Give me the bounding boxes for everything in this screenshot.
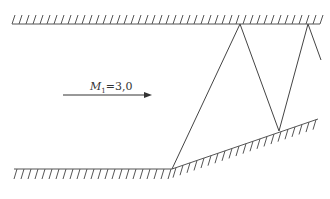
arrow-head-icon (144, 92, 152, 98)
upper-wall-hatching (12, 15, 323, 24)
upper-wall (12, 15, 323, 24)
lower-wall-hatching (14, 120, 316, 179)
channel-diagram (0, 0, 330, 199)
shock-reflection-path (172, 24, 321, 169)
mach-number-label: M1=3,0 (90, 80, 132, 95)
lower-wall (14, 119, 318, 179)
